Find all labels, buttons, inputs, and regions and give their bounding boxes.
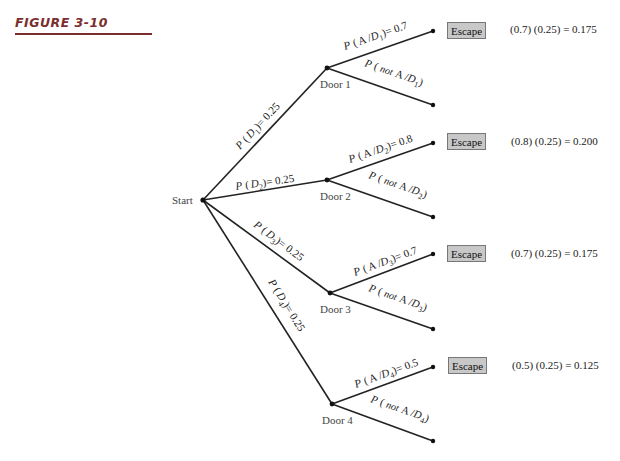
svg-text:P(D1)= 0.25: P(D1)= 0.25 — [232, 99, 284, 154]
fail-label-d1: P(notA /D1) — [361, 56, 425, 90]
joint-probability-door2: (0.8) (0.25) = 0.200 — [511, 135, 598, 147]
fail-label-d4: P(notA /D4) — [367, 392, 431, 426]
svg-text:P(notA /D1): P(notA /D1) — [361, 56, 425, 90]
svg-text:P(A /D2)= 0.8: P(A /D2)= 0.8 — [346, 132, 416, 168]
svg-text:P(notA /D4): P(notA /D4) — [367, 392, 431, 426]
escape-label-d2: P(A /D2)= 0.8 — [346, 132, 416, 168]
door3-node — [328, 291, 333, 296]
start-node — [200, 197, 205, 202]
joint-probability-door1: (0.7) (0.25) = 0.175 — [510, 23, 597, 35]
door3-label: Door 3 — [320, 303, 351, 315]
escape-box-door4: Escape — [448, 357, 487, 374]
leaf-door4-escape — [431, 365, 435, 369]
escape-box-door3: Escape — [447, 245, 486, 262]
edge-label-d2: P(D2)= 0.25 — [234, 172, 296, 195]
edge-start-door4 — [203, 200, 332, 404]
escape-label-d4: P(A /D4)= 0.5 — [352, 356, 421, 393]
door1-node — [325, 66, 330, 71]
leaf-door3-fail — [431, 327, 435, 331]
edge-label-d3: P(D3)= 0.25 — [249, 217, 307, 266]
door1-label: Door 1 — [320, 78, 351, 90]
door2-label: Door 2 — [320, 190, 351, 202]
escape-box-door1: Escape — [447, 22, 486, 39]
door2-node — [325, 178, 330, 183]
leaf-door2-escape — [431, 141, 435, 145]
joint-probability-door3: (0.7) (0.25) = 0.175 — [511, 247, 598, 259]
escape-label-d1: P(A /D1)= 0.7 — [341, 19, 411, 55]
door4-node — [330, 402, 335, 407]
joint-probability-door4: (0.5) (0.25) = 0.125 — [512, 359, 599, 371]
leaf-door3-escape — [431, 252, 435, 256]
leaf-door1-fail — [431, 103, 435, 107]
probability-tree: Start Door 1 Door 2 Door 3 Door 4 P(D1)=… — [0, 0, 620, 461]
escape-box-door2: Escape — [447, 133, 486, 150]
svg-text:P(A /D4)= 0.5: P(A /D4)= 0.5 — [352, 356, 421, 393]
leaf-door4-fail — [431, 439, 435, 443]
fail-label-d3: P(notA /D3) — [365, 281, 429, 315]
edge-start-door3 — [203, 200, 330, 293]
svg-text:P(notA /D3): P(notA /D3) — [365, 281, 429, 315]
svg-text:P(D2)= 0.25: P(D2)= 0.25 — [234, 172, 296, 195]
leaf-door2-fail — [431, 215, 435, 219]
door4-label: Door 4 — [322, 414, 353, 426]
start-label: Start — [172, 194, 193, 206]
svg-text:P(A /D1)= 0.7: P(A /D1)= 0.7 — [341, 19, 411, 55]
edge-label-d1: P(D1)= 0.25 — [232, 99, 284, 154]
leaf-door1-escape — [431, 29, 435, 33]
svg-text:P(D3)= 0.25: P(D3)= 0.25 — [249, 217, 307, 266]
